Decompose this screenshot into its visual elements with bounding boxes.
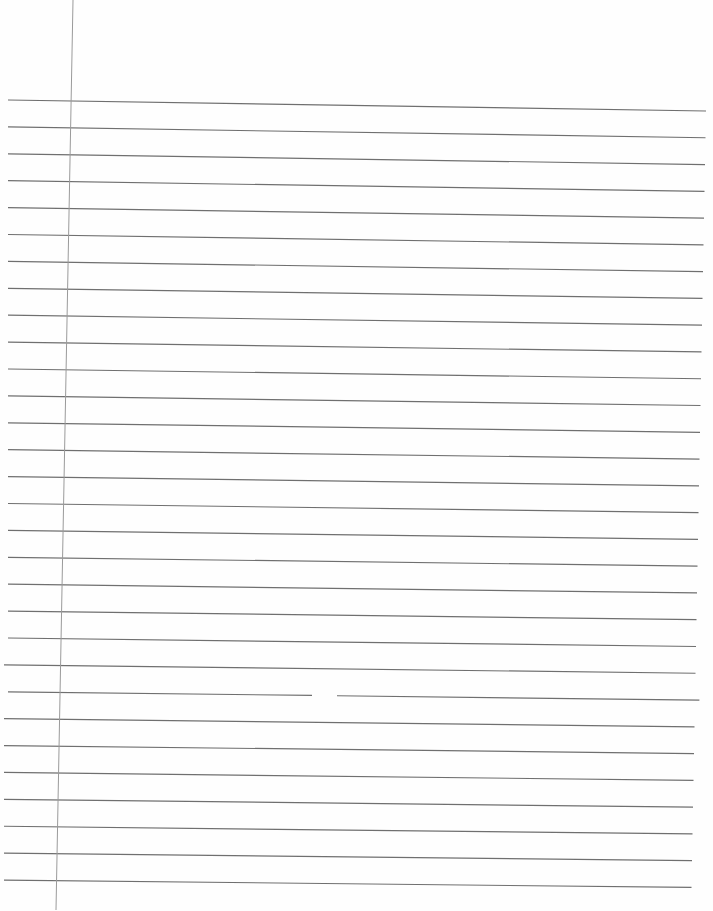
rule-line	[8, 208, 704, 218]
rule-line	[8, 315, 702, 325]
rule-line	[8, 557, 698, 566]
rule-line	[8, 477, 699, 486]
rule-line	[337, 696, 699, 700]
rule-line	[8, 127, 706, 138]
ruled-lines	[0, 0, 713, 911]
rule-line	[4, 853, 692, 861]
rule-line	[4, 799, 693, 807]
rule-line	[8, 611, 697, 620]
rule-line	[8, 504, 699, 513]
rule-line	[8, 235, 704, 245]
rule-line	[8, 450, 700, 459]
rule-line	[8, 692, 312, 696]
rule-line	[8, 423, 700, 432]
rule-line	[8, 288, 703, 298]
rule-line	[8, 181, 705, 192]
rule-line	[8, 584, 697, 593]
rule-line	[4, 826, 693, 834]
rule-line	[8, 100, 706, 111]
rule-line	[8, 396, 701, 406]
rule-line	[8, 530, 698, 539]
rule-line	[8, 638, 696, 646]
rule-line	[8, 369, 701, 379]
rule-line	[4, 746, 694, 754]
rule-line	[4, 772, 694, 780]
rule-line	[8, 342, 702, 352]
rule-line	[4, 880, 692, 887]
rule-line	[4, 665, 696, 673]
rule-line	[8, 154, 705, 165]
ruled-paper-sheet	[0, 0, 713, 911]
rule-line	[8, 261, 703, 271]
rule-line	[4, 719, 695, 727]
